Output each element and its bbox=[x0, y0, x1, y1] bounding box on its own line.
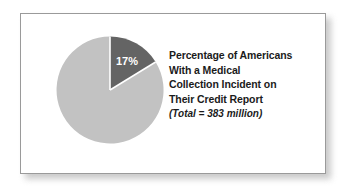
caption-line-3: Collection Incident on bbox=[169, 77, 319, 92]
pie-chart: 17% bbox=[52, 32, 168, 148]
chart-panel-inner: 17% Percentage of Americans With a Medic… bbox=[21, 14, 325, 173]
pie-slice-label-17-percent: 17% bbox=[116, 55, 138, 67]
caption-line-2: With a Medical bbox=[169, 63, 319, 78]
figure-root: 17% Percentage of Americans With a Medic… bbox=[0, 0, 347, 192]
chart-caption: Percentage of Americans With a Medical C… bbox=[169, 48, 319, 122]
caption-line-4: Their Credit Report bbox=[169, 92, 319, 107]
caption-line-1: Percentage of Americans bbox=[169, 48, 319, 63]
chart-panel: 17% Percentage of Americans With a Medic… bbox=[20, 13, 326, 174]
caption-total-note: (Total = 383 million) bbox=[169, 107, 319, 122]
pie-chart-svg: 17% bbox=[52, 32, 168, 148]
